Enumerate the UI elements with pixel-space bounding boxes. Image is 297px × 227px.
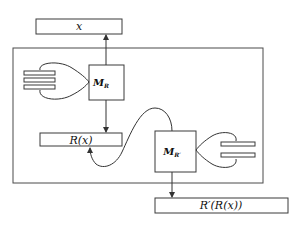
input-box: x: [36, 19, 122, 34]
output-box: R′(R(x)): [155, 198, 288, 213]
machine-r: MR: [89, 65, 124, 100]
tape-r: [24, 71, 55, 89]
reduction-composition-diagram: x MR R(x) MR′ R′(R(x)): [0, 0, 297, 227]
tape-head-loop-r-prime: [196, 133, 236, 168]
input-label: x: [76, 20, 83, 33]
tape-r-prime: [221, 142, 255, 157]
intermediate-label: R(x): [68, 134, 92, 147]
intermediate-box: R(x): [40, 133, 122, 147]
machine-r-prime: MR′: [155, 131, 196, 172]
output-label: R′(R(x)): [199, 199, 242, 212]
composite-machine-frame: [13, 48, 263, 183]
